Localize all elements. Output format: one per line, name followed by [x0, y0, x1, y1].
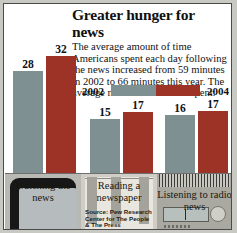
- photo-reading-a-newspaper: Reading a newspaper Source: Pew Research…: [81, 174, 157, 230]
- bar-group-reading: 15 17: [82, 4, 161, 174]
- bar-watching-2002: [13, 71, 43, 174]
- radio-scale-marks: [164, 225, 190, 228]
- bar-listening-2004: [198, 111, 228, 174]
- bar-group-listening: 16 17: [157, 4, 232, 174]
- bar-group-watching: 28 32: [5, 4, 84, 174]
- bar-reading-2004: [123, 112, 153, 174]
- bar-watching-2004: [46, 56, 76, 174]
- bar-value-watching-2004: 32: [46, 44, 76, 55]
- photo-caption-watching: Watching the news: [5, 180, 81, 203]
- bar-chart: 28 32 15 17 16 17: [5, 4, 232, 174]
- source-credit: Source: Pew Research Center for The Peop…: [85, 209, 155, 229]
- bar-value-listening-2004: 17: [198, 99, 228, 110]
- bar-reading-2002: [90, 119, 120, 174]
- photo-caption-reading: Reading a newspaper: [81, 180, 157, 203]
- bar-value-reading-2002: 15: [90, 107, 120, 118]
- bar-value-reading-2004: 17: [123, 100, 153, 111]
- infographic-panel: Greater hunger for news The average amou…: [3, 3, 232, 230]
- bar-listening-2002: [165, 115, 195, 174]
- photo-listening-to-radio-news: Listening to radio news: [157, 174, 232, 230]
- radio-grille: [159, 174, 230, 187]
- photo-caption-listening: Listening to radio news: [157, 189, 232, 212]
- bar-value-watching-2002: 28: [13, 59, 43, 70]
- photo-watching-the-news: Watching the news: [5, 174, 81, 230]
- photo-strip: Watching the news Reading a newspaper So…: [5, 174, 232, 230]
- bar-value-listening-2002: 16: [165, 103, 195, 114]
